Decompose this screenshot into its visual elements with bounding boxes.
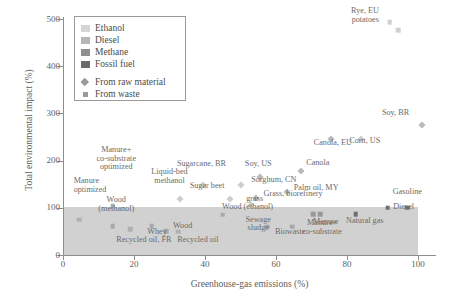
legend-item-ethanol[interactable]: Ethanol <box>81 22 179 34</box>
data-point-label: Diesel <box>393 203 414 212</box>
x-axis-title: Greenhouse-gas emissions (%) <box>63 279 436 289</box>
data-point-label: Recycled oil, FR <box>116 236 171 245</box>
data-point-label: Rye, EU potatoes <box>351 7 379 24</box>
legend-item-from-raw-material[interactable]: From raw material <box>81 76 179 88</box>
data-point-label: Soy, US <box>245 160 272 169</box>
data-point-marker <box>237 182 244 189</box>
data-point-label: Soy, BR <box>382 109 409 118</box>
data-point-marker <box>177 196 184 203</box>
data-point-label: Sorghum, CN <box>251 176 296 185</box>
data-point-label: Manure+ co-substrate optimized <box>96 146 136 172</box>
data-point-marker <box>297 168 304 175</box>
data-point-label: Liquid-bed methanol <box>151 168 187 185</box>
legend-swatch-icon <box>81 61 90 68</box>
data-point-label: Manure optimized <box>74 177 107 194</box>
data-point-marker <box>418 121 425 128</box>
y-axis-line <box>63 17 64 256</box>
data-point-label: Wood (ethanol) <box>222 203 273 212</box>
legend-item-diesel[interactable]: Diesel <box>81 34 179 46</box>
legend-label: From raw material <box>95 77 166 87</box>
x-tick-label: 100 <box>398 260 438 269</box>
x-axis-line <box>63 255 436 256</box>
data-point-label: Grass, biorefinery <box>264 190 323 199</box>
y-axis-title: Total environmental impact (%) <box>24 30 34 230</box>
diamond-marker-icon <box>81 78 90 87</box>
legend-item-from-waste[interactable]: From waste <box>81 88 179 100</box>
data-point-label: Biowaste <box>275 228 305 237</box>
x-tick-label: 20 <box>114 260 154 269</box>
legend-swatch-icon <box>81 25 90 32</box>
chart-figure: 0100200300400500 020406080100 Rye, EU po… <box>0 0 449 304</box>
legend-label: From waste <box>95 89 140 99</box>
shaded-reference-band <box>64 207 418 255</box>
square-marker-icon <box>81 90 90 99</box>
data-point-marker <box>396 28 401 33</box>
scatter-plot-area: 0100200300400500 020406080100 Rye, EU po… <box>0 0 449 304</box>
legend-label: Ethanol <box>95 23 125 33</box>
data-point-label: Wood (methanol) <box>98 196 134 213</box>
data-point-marker <box>220 213 225 218</box>
x-tick-label: 40 <box>185 260 225 269</box>
data-point-marker <box>311 212 316 217</box>
data-point-label: Manure+ co-substrate <box>302 219 342 236</box>
x-tick-label: 0 <box>43 260 83 269</box>
data-point-label: Wood <box>173 222 192 231</box>
data-point-label: Gasoline <box>393 188 422 197</box>
data-point-label: Canola <box>306 159 329 168</box>
legend-label: Diesel <box>95 35 119 45</box>
y-tick-label: 0 <box>20 251 60 260</box>
data-point-marker <box>128 227 133 232</box>
data-point-marker <box>386 205 391 210</box>
data-point-marker <box>110 224 115 229</box>
legend-swatch-icon <box>81 49 90 56</box>
legend-item-methane[interactable]: Methane <box>81 46 179 58</box>
legend-swatch-icon <box>81 37 90 44</box>
legend-label: Methane <box>95 47 128 57</box>
data-point-label: Recycled oil <box>177 236 218 245</box>
chart-legend: EthanolDieselMethaneFossil fuelFrom raw … <box>74 16 186 101</box>
x-tick-label: 60 <box>256 260 296 269</box>
data-point-label: Sewage sludge <box>246 216 271 233</box>
legend-label: Fossil fuel <box>95 59 135 69</box>
data-point-label: Corn, US <box>349 137 380 146</box>
data-point-marker <box>318 212 323 217</box>
y-tick-label: 500 <box>20 15 60 24</box>
data-point-label: Canola, EU <box>314 139 352 148</box>
legend-item-fossil-fuel[interactable]: Fossil fuel <box>81 58 179 70</box>
data-point-label: Natural gas <box>346 217 384 226</box>
data-point-label: Sugar beet <box>190 182 225 191</box>
data-point-marker <box>387 20 392 25</box>
data-point-marker <box>77 217 82 222</box>
x-tick-label: 80 <box>327 260 367 269</box>
